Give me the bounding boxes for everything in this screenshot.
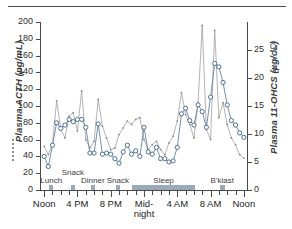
data-point	[68, 115, 70, 117]
x-tick-major	[111, 191, 112, 197]
x-tick-minor	[127, 191, 128, 195]
data-point	[222, 102, 224, 104]
top-rule	[8, 6, 286, 7]
data-point	[213, 61, 217, 65]
data-point	[143, 139, 145, 141]
left-tick-label: 180	[18, 33, 33, 43]
data-point	[126, 120, 128, 122]
data-point	[217, 65, 221, 69]
data-point	[233, 123, 237, 127]
data-point	[64, 137, 66, 139]
x-tick-minor	[152, 191, 153, 195]
chart-figure: Plasma ACTH (pg/mL) Plasma 11-OHCS (µg/d…	[0, 0, 292, 229]
left-tick-label: 80	[23, 117, 33, 127]
data-point	[77, 130, 79, 132]
data-point	[106, 137, 108, 139]
right-tick-label: 25	[254, 44, 264, 54]
data-point	[188, 118, 192, 122]
data-point	[81, 90, 83, 92]
data-point	[80, 117, 84, 121]
data-point	[226, 124, 228, 126]
data-point	[214, 30, 216, 32]
data-point	[230, 137, 232, 139]
data-point	[114, 147, 116, 149]
right-tick	[248, 162, 252, 163]
x-tick-major	[177, 191, 178, 197]
data-point	[185, 114, 187, 116]
data-point	[71, 120, 75, 124]
left-tick-label: 200	[18, 16, 33, 26]
data-point	[134, 149, 138, 153]
data-point	[164, 154, 166, 156]
data-point	[85, 139, 87, 141]
data-point	[96, 122, 100, 126]
data-point	[196, 103, 200, 107]
left-tick-label: 120	[18, 83, 33, 93]
data-point	[181, 92, 183, 94]
data-point	[100, 152, 104, 156]
legend-ohcs-dotted-line-icon	[273, 46, 276, 72]
right-tick-label: 20	[254, 72, 264, 82]
data-point	[97, 98, 99, 100]
data-point	[235, 144, 237, 146]
x-tick-minor	[194, 191, 195, 195]
data-point	[156, 140, 158, 142]
data-point	[184, 106, 188, 110]
data-point	[225, 103, 229, 107]
data-point	[179, 112, 183, 116]
x-tick-minor	[186, 191, 187, 195]
data-point	[221, 80, 225, 84]
data-point	[59, 126, 63, 130]
data-point	[125, 143, 129, 147]
right-tick-label: 15	[254, 100, 264, 110]
data-point	[117, 161, 121, 165]
data-point	[150, 152, 154, 156]
data-point	[110, 149, 112, 151]
data-point	[46, 164, 50, 168]
right-tick-label: 10	[254, 128, 264, 138]
data-point	[193, 137, 195, 139]
x-tick-minor	[94, 191, 95, 195]
x-tick-minor	[236, 191, 237, 195]
right-tick-label: 0	[254, 184, 259, 194]
data-point	[204, 125, 208, 129]
data-point	[208, 95, 212, 99]
data-point	[201, 24, 203, 26]
data-point	[88, 151, 92, 155]
x-tick-major	[244, 191, 245, 197]
series-ohcs-points	[42, 61, 246, 168]
x-tick-major	[77, 191, 78, 197]
data-point	[138, 154, 142, 158]
data-point	[167, 160, 171, 164]
series-acth-line	[44, 25, 244, 158]
right-tick-label: 5	[254, 156, 259, 166]
right-tick	[248, 78, 252, 79]
data-point	[50, 143, 54, 147]
data-point	[192, 123, 196, 127]
data-point	[176, 120, 178, 122]
x-tick-minor	[119, 191, 120, 195]
data-point	[75, 117, 79, 121]
x-tick-major	[144, 191, 145, 197]
left-tick-label: 100	[18, 100, 33, 110]
data-point	[42, 154, 46, 158]
left-tick-label: 160	[18, 50, 33, 60]
x-tick-minor	[169, 191, 170, 195]
x-tick-label: Noon	[214, 199, 274, 209]
left-tick-label: 60	[23, 134, 33, 144]
data-point	[242, 135, 246, 139]
data-point	[67, 117, 71, 121]
data-point	[121, 150, 125, 154]
x-tick-minor	[61, 191, 62, 195]
data-point	[118, 134, 120, 136]
data-point	[171, 159, 175, 163]
x-tick-major	[44, 191, 45, 197]
data-point	[131, 124, 133, 126]
data-point	[142, 125, 146, 129]
data-point	[43, 145, 45, 147]
data-point	[229, 118, 233, 122]
data-point	[122, 127, 124, 129]
plot-area	[40, 22, 248, 190]
data-point	[159, 157, 163, 161]
x-tick-minor	[202, 191, 203, 195]
